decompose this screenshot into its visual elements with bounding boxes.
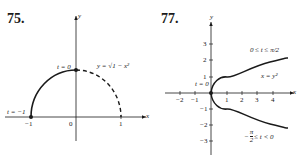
tick-zero: 0 (69, 120, 73, 128)
figure-number-75: 75. (7, 11, 25, 27)
x-axis-label: x (293, 88, 296, 96)
x-tick: 3 (255, 96, 259, 104)
y-axis-label: y (78, 12, 81, 20)
point-label-top: t = 0 (57, 63, 71, 71)
lower-branch (211, 93, 288, 128)
top-point (74, 68, 78, 72)
y-tick: 3 (203, 40, 207, 48)
y-tick: −1 (200, 105, 207, 113)
figure-number-77: 77. (161, 11, 179, 27)
lower-range-suffix: ≤ t < 0 (254, 133, 273, 141)
y-tick: −2 (200, 121, 207, 129)
fraction: π 2 (250, 129, 254, 144)
curve-label: x = y² (261, 72, 278, 80)
origin-point (209, 91, 213, 95)
y-axis-label: y (210, 13, 213, 21)
x-tick: 2 (240, 96, 244, 104)
x-axis-label: x (146, 112, 149, 120)
point-label-start: t = −1 (7, 108, 25, 116)
lower-range-label: − π 2 ≤ t < 0 (244, 129, 274, 144)
y-tick: −3 (200, 137, 207, 145)
tick-one: 1 (119, 120, 123, 128)
x-tick: 4 (271, 96, 275, 104)
upper-range-label: 0 ≤ t ≤ π/2 (250, 46, 279, 54)
start-point (29, 115, 33, 119)
x-tick: −2 (176, 96, 183, 104)
x-tick: −1 (191, 96, 198, 104)
origin-label: t = 0 (195, 80, 209, 88)
dashed-arc (76, 70, 121, 117)
tick-neg-one: −1 (25, 120, 32, 128)
figure-77 (165, 22, 294, 155)
fraction-den: 2 (250, 137, 254, 144)
curve-label: y = √1 − x² (97, 62, 129, 70)
lower-range-prefix: − (244, 133, 249, 141)
solid-arc (31, 70, 76, 117)
x-tick: 1 (225, 96, 229, 104)
y-tick: 2 (203, 56, 207, 64)
